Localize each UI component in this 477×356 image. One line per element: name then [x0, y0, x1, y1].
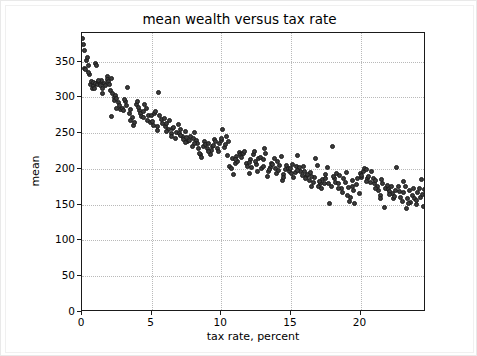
scatter-point	[82, 48, 87, 53]
gridline-horizontal	[82, 62, 424, 63]
figure-container: mean wealth versus tax rate 05101520 050…	[0, 0, 477, 356]
scatter-point	[400, 199, 405, 204]
scatter-point	[231, 172, 236, 177]
scatter-point	[85, 55, 90, 60]
scatter-point	[136, 105, 141, 110]
scatter-point	[125, 85, 130, 90]
scatter-point	[414, 202, 419, 207]
scatter-point	[183, 140, 188, 145]
x-tick-mark	[81, 311, 82, 315]
y-tick-mark	[77, 204, 81, 205]
scatter-point	[135, 99, 140, 104]
y-tick-mark	[77, 168, 81, 169]
gridline-horizontal	[82, 240, 424, 241]
x-tick-mark	[220, 311, 221, 315]
y-tick-mark	[77, 61, 81, 62]
scatter-point	[155, 128, 160, 133]
scatter-point	[276, 168, 281, 173]
scatter-point	[253, 159, 258, 164]
y-tick-mark	[77, 311, 81, 312]
scatter-point	[109, 114, 114, 119]
scatter-point	[216, 149, 221, 154]
scatter-point	[382, 205, 387, 210]
scatter-point	[414, 198, 419, 203]
y-tick-label: 350	[39, 55, 75, 67]
gridline-horizontal	[82, 276, 424, 277]
y-tick-mark	[77, 239, 81, 240]
scatter-point	[109, 76, 114, 81]
x-tick-mark	[151, 311, 152, 315]
scatter-point	[265, 174, 270, 179]
gridline-horizontal	[82, 133, 424, 134]
scatter-point	[225, 153, 230, 158]
scatter-point	[281, 175, 286, 180]
scatter-point	[344, 170, 349, 175]
scatter-point	[224, 134, 229, 139]
scatter-point	[406, 201, 411, 206]
scatter-point	[206, 149, 211, 154]
scatter-point	[330, 144, 335, 149]
y-tick-mark	[77, 275, 81, 276]
x-tick-label: 20	[353, 316, 366, 328]
scatter-point	[86, 70, 91, 75]
x-tick-label: 0	[78, 316, 85, 328]
scatter-point	[96, 78, 101, 83]
scatter-point	[419, 177, 424, 182]
scatter-point	[311, 180, 316, 185]
x-tick-label: 15	[283, 316, 296, 328]
gridline-vertical	[152, 33, 153, 310]
scatter-point	[295, 153, 300, 158]
scatter-point	[261, 164, 266, 169]
scatter-point	[359, 173, 364, 178]
scatter-point	[392, 194, 397, 199]
gridline-horizontal	[82, 97, 424, 98]
scatter-point	[122, 97, 127, 102]
scatter-point	[242, 149, 247, 154]
scatter-point	[226, 139, 231, 144]
scatter-point	[404, 206, 409, 211]
scatter-point	[132, 120, 137, 125]
scatter-point	[114, 106, 119, 111]
scatter-point	[199, 155, 204, 160]
scatter-point	[162, 116, 167, 121]
scatter-point	[211, 143, 216, 148]
scatter-point	[319, 186, 324, 191]
y-tick-label: 300	[39, 90, 75, 102]
scatter-point	[107, 82, 112, 87]
y-tick-label: 250	[39, 126, 75, 138]
scatter-point	[351, 188, 356, 193]
gridline-horizontal	[82, 205, 424, 206]
scatter-point	[317, 179, 322, 184]
x-tick-label: 10	[214, 316, 227, 328]
scatter-point	[81, 42, 86, 47]
scatter-point	[121, 108, 126, 113]
scatter-point	[239, 155, 244, 160]
y-tick-mark	[77, 132, 81, 133]
scatter-point	[252, 149, 257, 154]
scatter-point	[100, 91, 105, 96]
scatter-point	[81, 36, 85, 41]
scatter-point	[345, 193, 350, 198]
scatter-point	[247, 171, 252, 176]
y-axis-label: mean	[29, 155, 42, 186]
x-axis-label: tax rate, percent	[81, 330, 425, 343]
scatter-point	[261, 157, 266, 162]
scatter-point	[128, 118, 133, 123]
scatter-point	[421, 204, 425, 209]
scatter-point	[315, 163, 320, 168]
chart-title: mean wealth versus tax rate	[1, 11, 477, 27]
scatter-point	[267, 167, 272, 172]
scatter-point	[92, 86, 97, 91]
scatter-point	[387, 192, 392, 197]
x-tick-mark	[290, 311, 291, 315]
scatter-point	[197, 151, 202, 156]
y-tick-label: 100	[39, 233, 75, 245]
scatter-point	[401, 190, 406, 195]
scatter-point	[192, 130, 197, 135]
scatter-point	[86, 63, 91, 68]
scatter-point	[364, 167, 369, 172]
scatter-point	[263, 151, 268, 156]
scatter-point	[417, 186, 422, 191]
y-tick-mark	[77, 96, 81, 97]
scatter-point	[325, 165, 330, 170]
